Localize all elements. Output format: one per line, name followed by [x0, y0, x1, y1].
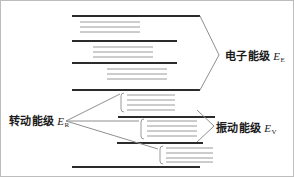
- label-vibrational-subscript: V: [271, 128, 276, 136]
- label-rotational-energy: 转动能级ER: [9, 112, 69, 129]
- figure-canvas: 电子能级EE 转动能级ER 振动能级EV: [0, 0, 294, 177]
- label-rotational-subscript: R: [64, 121, 69, 129]
- label-rotational-symbol: E: [57, 115, 64, 127]
- label-electronic-symbol: E: [273, 50, 280, 62]
- figure-border: [1, 1, 294, 177]
- electronic-bracket: [200, 16, 219, 90]
- vibrational-bracket: [197, 110, 214, 142]
- vibrational-bracket-path: [197, 110, 214, 142]
- label-vibrational-symbol: E: [264, 122, 271, 134]
- rotational-bracket-arm-1: [66, 94, 120, 121]
- energy-level-diagram: [0, 0, 294, 177]
- rotational-box-3: [160, 146, 213, 164]
- rotational-box-2: [141, 119, 197, 139]
- rotational-bracket: [66, 94, 158, 149]
- vibrational-sublevels-upper: [80, 22, 167, 79]
- label-electronic-energy: 电子能级EE: [225, 47, 285, 64]
- vibrational-levels-lower: [72, 117, 215, 167]
- rotational-box-1: [121, 93, 175, 112]
- rotational-bracket-2: [141, 119, 144, 139]
- rotational-bracket-3: [160, 146, 163, 164]
- rotational-bracket-1: [121, 93, 124, 112]
- label-electronic-subscript: E: [280, 56, 284, 64]
- label-rotational-cjk: 转动能级: [9, 115, 54, 127]
- electronic-bracket-path: [200, 16, 219, 90]
- label-electronic-cjk: 电子能级: [225, 50, 270, 62]
- label-vibrational-cjk: 振动能级: [216, 122, 261, 134]
- rotational-bracket-arm-3: [66, 121, 158, 149]
- label-vibrational-energy: 振动能级EV: [216, 119, 277, 136]
